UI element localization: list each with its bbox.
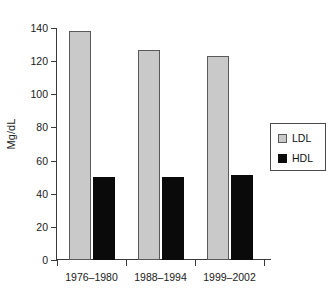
y-axis-tick-label: 80 xyxy=(0,122,48,132)
bar-ldl-1 xyxy=(69,31,91,260)
x-axis-category-label: 1999–2002 xyxy=(189,271,270,283)
chart-legend: LDL HDL xyxy=(270,123,326,171)
y-axis-tick-value: 60 xyxy=(2,156,48,166)
y-axis-tick-label: 120 xyxy=(0,56,48,66)
bar-hdl-3 xyxy=(231,175,253,260)
x-axis-tick xyxy=(264,260,265,266)
y-axis-tick-label: 20 xyxy=(0,222,48,232)
y-axis-tick-value: 100 xyxy=(2,89,48,99)
y-axis-tick-label: 140 xyxy=(0,23,48,33)
y-axis-tick-label: 40 xyxy=(0,189,48,199)
y-axis-tick-value: 140 xyxy=(2,23,48,33)
y-axis-tick-value: 0 xyxy=(2,255,48,265)
x-axis-tick xyxy=(126,260,127,266)
cholesterol-bar-chart: Mg/dL 020406080100120140 1976–19801988–1… xyxy=(0,0,331,298)
y-axis-tick-label: 60 xyxy=(0,156,48,166)
legend-label-hdl: HDL xyxy=(292,153,313,164)
legend-swatch-hdl-icon xyxy=(278,154,287,163)
y-axis-tick-label: 0 xyxy=(0,255,48,265)
x-axis-tick xyxy=(57,260,58,266)
bar-hdl-2 xyxy=(162,177,184,260)
bar-ldl-2 xyxy=(138,50,160,260)
legend-entry-ldl: LDL xyxy=(278,132,311,144)
legend-swatch-ldl-icon xyxy=(278,134,287,143)
legend-label-ldl: LDL xyxy=(292,133,311,144)
y-axis-tick-value: 120 xyxy=(2,56,48,66)
y-axis-tick-value: 80 xyxy=(2,122,48,132)
x-axis-tick xyxy=(195,260,196,266)
bar-hdl-1 xyxy=(93,177,115,260)
legend-entry-hdl: HDL xyxy=(278,152,313,164)
y-axis-tick-value: 20 xyxy=(2,222,48,232)
y-axis-tick-label: 100 xyxy=(0,89,48,99)
y-axis-tick-value: 40 xyxy=(2,189,48,199)
plot-area xyxy=(57,28,264,260)
bar-ldl-3 xyxy=(207,56,229,260)
